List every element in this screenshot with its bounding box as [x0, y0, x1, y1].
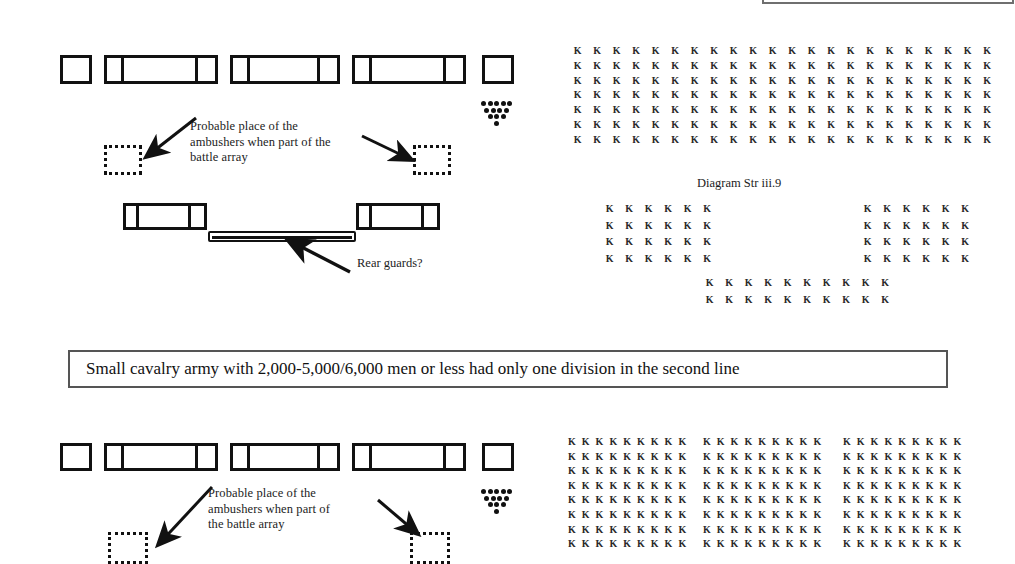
k-trooper-glyph: K — [769, 538, 783, 553]
k-trooper-glyph: K — [607, 134, 627, 149]
k-trooper-glyph: K — [565, 509, 579, 524]
k-trooper-glyph: K — [666, 89, 686, 104]
k-trooper-glyph: K — [895, 451, 909, 466]
k-trooper-glyph: K — [565, 480, 579, 495]
k-row: KKKKKKKKK — [700, 538, 824, 553]
k-trooper-glyph: K — [919, 60, 939, 75]
k-trooper-glyph: K — [958, 104, 978, 119]
k-trooper-glyph: K — [841, 104, 861, 119]
k-trooper-glyph: K — [593, 480, 607, 495]
k-trooper-glyph: K — [646, 75, 666, 90]
k-trooper-glyph: K — [763, 134, 783, 149]
k-trooper-glyph: K — [802, 75, 822, 90]
k-block-mid-right: KKKKKKKKKKKKKKKKKKKKKKKK — [858, 203, 975, 269]
k-trooper-glyph: K — [900, 104, 920, 119]
k-trooper-glyph: K — [881, 480, 895, 495]
k-trooper-glyph: K — [939, 60, 959, 75]
k-trooper-glyph: K — [937, 509, 951, 524]
k-trooper-glyph: K — [755, 524, 769, 539]
k-trooper-glyph: K — [769, 509, 783, 524]
k-trooper-glyph: K — [579, 509, 593, 524]
k-row: KKKKKKKKKKKKKKKKKKKKKK — [568, 119, 997, 134]
k-trooper-glyph: K — [923, 451, 937, 466]
k-row: KKKKKKKKK — [840, 494, 964, 509]
k-trooper-glyph: K — [634, 451, 648, 466]
unit-segment — [63, 446, 89, 468]
k-trooper-glyph: K — [741, 509, 755, 524]
k-trooper-glyph: K — [627, 45, 647, 60]
k-trooper-glyph: K — [858, 253, 878, 270]
k-trooper-glyph: K — [958, 119, 978, 134]
k-trooper-glyph: K — [714, 538, 728, 553]
k-trooper-glyph: K — [728, 480, 742, 495]
k-trooper-glyph: K — [858, 220, 878, 237]
k-trooper-glyph: K — [861, 75, 881, 90]
k-trooper-glyph: K — [978, 119, 998, 134]
k-trooper-glyph: K — [841, 89, 861, 104]
k-trooper-glyph: K — [878, 253, 898, 270]
k-row: KKKKKKKKK — [700, 494, 824, 509]
k-trooper-glyph: K — [841, 134, 861, 149]
k-trooper-glyph: K — [759, 294, 779, 311]
k-trooper-glyph: K — [783, 45, 803, 60]
k-trooper-glyph: K — [909, 538, 923, 553]
k-row: KKKKKK — [600, 203, 717, 220]
k-row: KKKKKKKKK — [565, 480, 689, 495]
k-trooper-glyph: K — [675, 451, 689, 466]
k-trooper-glyph: K — [763, 119, 783, 134]
k-trooper-glyph: K — [923, 436, 937, 451]
k-trooper-glyph: K — [878, 203, 898, 220]
k-block-mid-center-rear: KKKKKKKKKKKKKKKKKKKK — [700, 277, 895, 310]
k-trooper-glyph: K — [769, 494, 783, 509]
k-trooper-glyph: K — [858, 236, 878, 253]
k-trooper-glyph: K — [854, 451, 868, 466]
k-trooper-glyph: K — [662, 436, 676, 451]
k-trooper-glyph: K — [714, 465, 728, 480]
k-trooper-glyph: K — [778, 277, 798, 294]
k-trooper-glyph: K — [840, 480, 854, 495]
k-trooper-glyph: K — [675, 480, 689, 495]
k-trooper-glyph: K — [923, 538, 937, 553]
k-trooper-glyph: K — [728, 524, 742, 539]
k-trooper-glyph: K — [700, 294, 720, 311]
k-row: KKKKKKKKKKKKKKKKKKKKKK — [568, 104, 997, 119]
k-trooper-glyph: K — [797, 494, 811, 509]
k-row: KKKKKKKKKKKKKKKKKKKKKK — [568, 134, 997, 149]
k-trooper-glyph: K — [880, 45, 900, 60]
k-trooper-glyph: K — [937, 538, 951, 553]
k-trooper-glyph: K — [606, 494, 620, 509]
k-trooper-glyph: K — [698, 220, 718, 237]
k-trooper-glyph: K — [881, 524, 895, 539]
k-trooper-glyph: K — [802, 89, 822, 104]
k-trooper-glyph: K — [675, 538, 689, 553]
k-trooper-glyph: K — [588, 134, 608, 149]
k-trooper-glyph: K — [728, 509, 742, 524]
k-trooper-glyph: K — [917, 236, 937, 253]
unit-segment — [198, 446, 215, 468]
k-trooper-glyph: K — [837, 277, 857, 294]
k-trooper-glyph: K — [778, 294, 798, 311]
k-trooper-glyph: K — [856, 294, 876, 311]
k-trooper-glyph: K — [627, 75, 647, 90]
k-trooper-glyph: K — [646, 89, 666, 104]
k-trooper-glyph: K — [880, 134, 900, 149]
arrow-ambush-top-left — [146, 118, 196, 157]
k-row: KKKKKK — [858, 203, 975, 220]
k-trooper-glyph: K — [646, 45, 666, 60]
k-trooper-glyph: K — [755, 451, 769, 466]
k-trooper-glyph: K — [720, 294, 740, 311]
k-trooper-glyph: K — [755, 494, 769, 509]
k-trooper-glyph: K — [909, 451, 923, 466]
k-trooper-glyph: K — [876, 277, 896, 294]
k-trooper-glyph: K — [868, 538, 882, 553]
k-trooper-glyph: K — [744, 45, 764, 60]
k-trooper-glyph: K — [797, 465, 811, 480]
k-trooper-glyph: K — [783, 538, 797, 553]
k-trooper-glyph: K — [956, 203, 976, 220]
k-trooper-glyph: K — [923, 480, 937, 495]
k-row: KKKKKKKKKKKKKKKKKKKKKK — [568, 60, 997, 75]
k-trooper-glyph: K — [822, 45, 842, 60]
k-trooper-glyph: K — [840, 524, 854, 539]
k-trooper-glyph: K — [783, 89, 803, 104]
k-trooper-glyph: K — [978, 60, 998, 75]
